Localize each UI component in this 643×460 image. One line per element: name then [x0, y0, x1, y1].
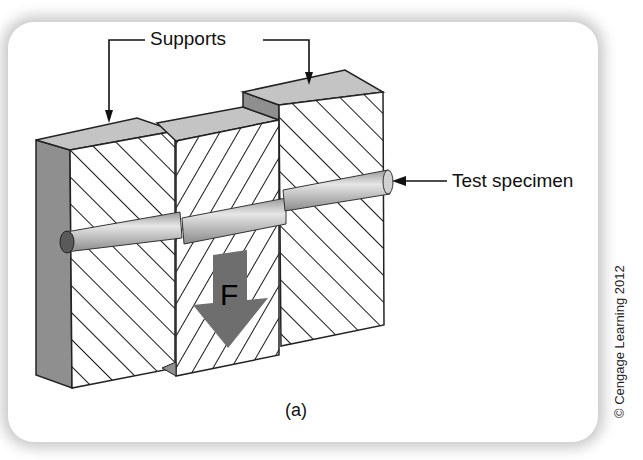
force-label: F	[220, 278, 238, 312]
copyright-credit: © Cengage Learning 2012	[612, 265, 627, 418]
left-support-block	[36, 118, 175, 388]
shear-test-diagram	[0, 0, 643, 460]
arrowhead-specimen	[392, 176, 406, 186]
arrowhead-left-support	[105, 110, 113, 123]
supports-label: Supports	[150, 28, 226, 50]
test-specimen-label: Test specimen	[452, 170, 573, 192]
figure-caption: (a)	[285, 400, 307, 421]
